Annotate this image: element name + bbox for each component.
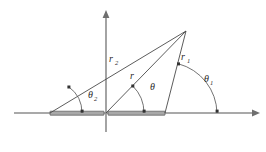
label-theta1-subscript: 1: [210, 79, 213, 86]
label-r2: r: [109, 53, 113, 64]
diagram-canvas: r 2 r r 1 θ 2 θ θ 1: [0, 0, 266, 152]
y-axis-arrow-icon: [103, 10, 110, 18]
label-r: r: [130, 70, 134, 81]
label-theta2-subscript: 2: [94, 95, 98, 102]
ray-group: [50, 31, 186, 113]
label-theta1: θ: [204, 73, 209, 84]
aperture-bar-left-half: [50, 111, 104, 115]
label-r2-subscript: 2: [115, 59, 119, 66]
tick-theta1-axis: [216, 110, 219, 113]
aperture-bar-right-half: [108, 111, 165, 115]
angle-theta1-arc: [178, 64, 217, 113]
ray-label-group: r 2 r r 1: [109, 51, 190, 81]
ray-r1-line: [165, 31, 186, 113]
tick-theta2-axis: [81, 110, 84, 113]
x-axis-arrow-icon: [252, 110, 260, 117]
tick-theta2-ray: [67, 86, 70, 89]
tick-theta1-ray: [177, 62, 180, 65]
tick-theta-ray: [131, 85, 134, 88]
angle-theta-arc: [133, 86, 144, 113]
label-theta2: θ: [88, 89, 93, 100]
label-r1: r: [181, 51, 185, 62]
label-theta: θ: [150, 81, 155, 92]
geometry-diagram: r 2 r r 1 θ 2 θ θ 1: [0, 0, 266, 152]
label-r1-subscript: 1: [187, 57, 190, 64]
tick-theta-axis: [143, 110, 146, 113]
